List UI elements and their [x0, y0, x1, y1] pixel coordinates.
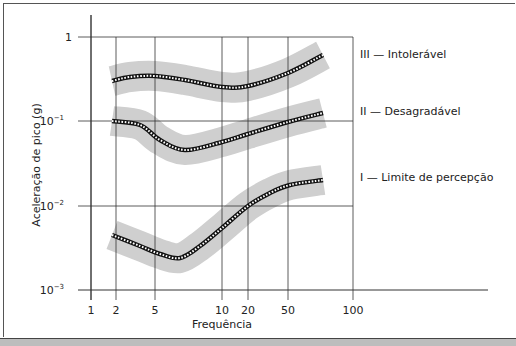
- x-tick-label: 100: [343, 304, 364, 317]
- x-tick-label: 1: [88, 304, 95, 317]
- y-tick-label: 10−1: [40, 114, 64, 128]
- y-axis-ticks: 110−110−210−3: [40, 31, 72, 297]
- curve-label: II — Desagradável: [360, 105, 461, 118]
- x-axis-title: Frequência: [192, 318, 252, 331]
- y-tick-label: 10−2: [40, 199, 64, 213]
- x-tick-label: 50: [281, 304, 295, 317]
- x-tick-label: 5: [152, 304, 159, 317]
- y-axis-title: Aceleração de pico (g): [30, 103, 43, 226]
- curve-label: I — Limite de percepção: [360, 171, 494, 184]
- y-tick-label: 10−3: [40, 283, 64, 297]
- x-tick-label: 2: [113, 304, 120, 317]
- x-axis-ticks: 125102050100: [88, 304, 364, 317]
- x-tick-label: 20: [241, 304, 255, 317]
- curve-label: III — Intolerável: [360, 48, 446, 61]
- curve-labels: III — IntolerávelII — DesagradávelI — Li…: [360, 48, 494, 184]
- y-tick-label: 1: [65, 31, 72, 44]
- x-tick-label: 10: [215, 304, 229, 317]
